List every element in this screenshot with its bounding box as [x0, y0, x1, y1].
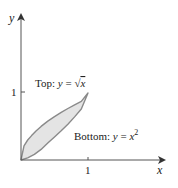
region-diagram: y x 1 1 Top: y = √x Bottom: y = x2: [0, 0, 178, 188]
top-curve-label: Top: y = √x: [35, 77, 85, 89]
y-tick-label: 1: [11, 86, 17, 98]
y-axis-label: y: [8, 11, 15, 25]
bottom-curve-label: Bottom: y = x2: [74, 128, 138, 142]
x-axis-label: x: [156, 163, 163, 177]
x-tick-label: 1: [85, 164, 91, 176]
shaded-region: [21, 93, 88, 160]
